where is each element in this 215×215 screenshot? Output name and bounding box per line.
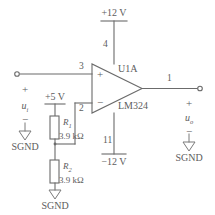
output-minus-sign: − <box>186 126 192 137</box>
opamp-part-number-label: LM324 <box>118 101 148 111</box>
inverting-input-symbol: − <box>97 97 103 108</box>
resistor-r2-designator: R2 <box>63 162 72 173</box>
schematic-drawing <box>0 0 215 215</box>
output-ground-icon <box>183 142 195 151</box>
resistor-r1-value: 3.9 kΩ <box>59 132 84 141</box>
pin-label-4: 4 <box>103 40 108 50</box>
negative-supply-label: −12 V <box>101 157 126 167</box>
input-terminal <box>15 72 20 77</box>
input-signal-label: ui <box>22 101 29 114</box>
output-terminal <box>198 86 203 91</box>
resistor-r1-designator: R1 <box>63 118 72 129</box>
output-ground-label: SGND <box>175 153 202 163</box>
input-ground-label: SGND <box>11 142 38 152</box>
resistor-r2-body <box>50 160 59 183</box>
circuit-schematic: +12 V 4 3 2 11 1 + − U1A LM324 −12 V +5 … <box>0 0 215 215</box>
resistor-r2-value: 3.9 kΩ <box>59 176 84 185</box>
input-ground-icon <box>19 131 31 140</box>
divider-ground-icon <box>49 190 61 199</box>
r1-subscript: 1 <box>69 122 72 129</box>
positive-supply-label: +12 V <box>101 8 126 18</box>
pin-label-2: 2 <box>79 104 84 114</box>
input-minus-sign: − <box>22 114 28 125</box>
noninverting-input-symbol: + <box>97 69 103 80</box>
pin-label-3: 3 <box>79 62 84 72</box>
pin-label-1: 1 <box>167 74 172 84</box>
input-signal-subscript: i <box>27 106 29 113</box>
divider-ground-label: SGND <box>41 201 68 211</box>
output-plus-sign: + <box>186 98 192 109</box>
bias-source-label: +5 V <box>45 92 65 102</box>
output-signal-subscript: o <box>190 118 193 125</box>
resistor-r1-body <box>50 116 59 139</box>
pin-label-11: 11 <box>103 136 112 146</box>
output-signal-label: uo <box>185 113 193 126</box>
opamp-designator-label: U1A <box>118 64 137 74</box>
divider-node-junction <box>54 143 57 146</box>
r2-subscript: 2 <box>69 166 72 173</box>
input-plus-sign: + <box>22 84 28 95</box>
